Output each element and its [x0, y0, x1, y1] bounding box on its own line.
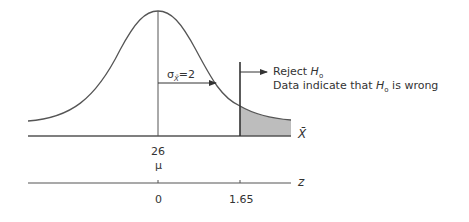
xbar-axis-label: X̄	[298, 128, 306, 141]
h-symbol: H	[311, 65, 319, 78]
z-tick-label-165: 1.65	[229, 193, 254, 206]
reject-label-line2: Data indicate that Ho is wrong	[273, 79, 438, 97]
mean-value-label: 26	[151, 145, 165, 158]
normal-curve	[28, 11, 291, 121]
sigma-value: =2	[179, 68, 195, 81]
mu-label: μ	[155, 159, 162, 172]
sigma-label: σX̄=2	[167, 68, 195, 86]
data-indicate-text: Data indicate that	[273, 79, 376, 92]
sigma-symbol: σ	[167, 68, 174, 81]
hypothesis-test-diagram: σX̄=2 Reject Ho Data indicate that Ho is…	[0, 0, 469, 222]
z-axis-label: z	[298, 176, 304, 189]
diagram-graphics	[0, 0, 469, 222]
is-wrong-text: is wrong	[389, 79, 439, 92]
reject-text: Reject	[273, 65, 311, 78]
z-tick-label-0: 0	[155, 193, 162, 206]
